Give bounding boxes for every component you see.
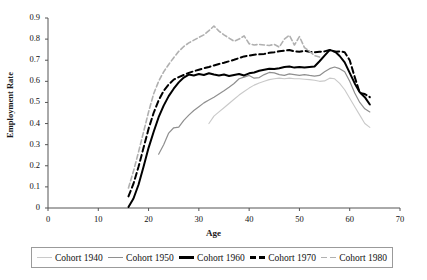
chart-legend: Cohort 1940Cohort 1950Cohort 1960Cohort … xyxy=(31,247,393,268)
legend-label: Cohort 1960 xyxy=(197,253,245,263)
chart-plot-area xyxy=(0,0,427,280)
legend-label: Cohort 1980 xyxy=(339,253,387,263)
y-tick-label: 0.4 xyxy=(16,118,40,128)
x-tick-label: 30 xyxy=(187,214,211,224)
y-tick-label: 0.5 xyxy=(16,96,40,106)
y-tick-label: 0.9 xyxy=(16,12,40,22)
x-tick-label: 10 xyxy=(86,214,110,224)
legend-swatch-icon xyxy=(37,257,52,258)
series-line-cohort-1960 xyxy=(128,50,369,207)
y-tick-label: 0.7 xyxy=(16,54,40,64)
x-tick-label: 70 xyxy=(388,214,412,224)
series-line-cohort-1950 xyxy=(159,67,370,154)
y-tick-label: 0 xyxy=(16,202,40,212)
y-tick-label: 0.2 xyxy=(16,160,40,170)
legend-item-cohort-1980[interactable]: Cohort 1980 xyxy=(321,253,387,263)
y-tick-label: 0.3 xyxy=(16,139,40,149)
legend-label: Cohort 1940 xyxy=(55,253,103,263)
x-axis-title: Age xyxy=(0,228,427,238)
x-tick-label: 0 xyxy=(36,214,60,224)
legend-swatch-icon xyxy=(179,256,194,259)
x-tick-label: 60 xyxy=(338,214,362,224)
employment-rate-chart: Employment Rate Age Cohort 1940Cohort 19… xyxy=(0,0,427,280)
legend-item-cohort-1950[interactable]: Cohort 1950 xyxy=(108,253,174,263)
y-axis-title-text: Employment Rate xyxy=(5,72,15,138)
x-tick-label: 50 xyxy=(287,214,311,224)
series-line-cohort-1970 xyxy=(128,50,369,196)
y-tick-label: 0.6 xyxy=(16,75,40,85)
legend-item-cohort-1970[interactable]: Cohort 1970 xyxy=(250,253,316,263)
legend-label: Cohort 1970 xyxy=(268,253,316,263)
legend-swatch-icon xyxy=(250,256,265,259)
series-line-cohort-1940 xyxy=(209,78,370,127)
legend-swatch-icon xyxy=(108,257,123,258)
legend-label: Cohort 1950 xyxy=(126,253,174,263)
y-tick-label: 0.1 xyxy=(16,181,40,191)
legend-swatch-icon xyxy=(321,257,336,258)
x-tick-label: 40 xyxy=(237,214,261,224)
y-tick-label: 0.8 xyxy=(16,33,40,43)
x-tick-label: 20 xyxy=(137,214,161,224)
legend-item-cohort-1960[interactable]: Cohort 1960 xyxy=(179,253,245,263)
legend-item-cohort-1940[interactable]: Cohort 1940 xyxy=(37,253,103,263)
